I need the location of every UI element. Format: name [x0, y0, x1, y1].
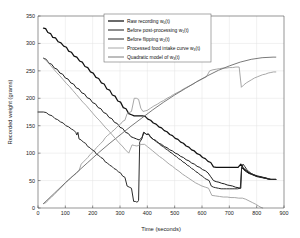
x-tick-label: 600: [198, 210, 207, 216]
y-tick-label: 200: [26, 95, 35, 101]
x-tick-label: 100: [61, 210, 70, 216]
x-axis-title: Time (seconds): [141, 226, 181, 232]
x-tick-label: 400: [143, 210, 152, 216]
x-tick-label: 800: [252, 210, 261, 216]
y-axis-title: Recorded weight (grams): [7, 79, 13, 144]
x-tick-label: 200: [88, 210, 97, 216]
chart-canvas: 0100200300400500600700800900 05010015020…: [0, 0, 300, 238]
y-tick-label: 50: [29, 178, 35, 184]
y-tick-label: 350: [26, 13, 35, 19]
x-tick-label: 900: [280, 210, 289, 216]
x-tick-label: 500: [170, 210, 179, 216]
legend[interactable]: Raw recording w0(t)Before post-processin…: [104, 14, 211, 62]
x-tick-label: 700: [225, 210, 234, 216]
figure-container: 0100200300400500600700800900 05010015020…: [0, 0, 300, 238]
x-tick-label: 300: [116, 210, 125, 216]
x-tick-label: 0: [37, 210, 40, 216]
y-tick-label: 0: [32, 205, 35, 211]
y-tick-label: 100: [26, 150, 35, 156]
y-tick-label: 250: [26, 68, 35, 74]
y-tick-label: 150: [26, 123, 35, 129]
y-tick-label: 300: [26, 40, 35, 46]
